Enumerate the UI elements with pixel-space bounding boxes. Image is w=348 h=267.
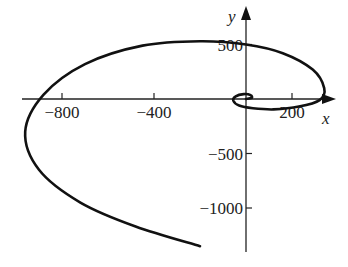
x-axis-label: x bbox=[321, 109, 330, 128]
spiral-chart: −800−400200 500−500−1000 x y bbox=[0, 0, 348, 267]
y-axis-arrow-icon bbox=[241, 6, 251, 20]
x-ticks: −800−400200 bbox=[44, 93, 304, 122]
y-ticks: 500−500−1000 bbox=[199, 36, 252, 219]
y-axis-label: y bbox=[226, 7, 236, 26]
x-tick-label: −400 bbox=[136, 103, 171, 122]
spiral-curve bbox=[25, 41, 324, 246]
y-tick-label: −500 bbox=[208, 145, 243, 164]
y-tick-label: −1000 bbox=[199, 199, 243, 218]
y-tick-label: 500 bbox=[218, 36, 244, 55]
x-tick-label: −800 bbox=[44, 103, 79, 122]
